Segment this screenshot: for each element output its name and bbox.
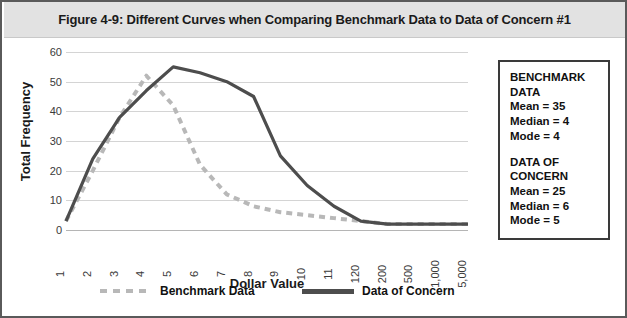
series-line-data-of-concern xyxy=(66,67,468,224)
x-axis-ticks: 12345678910111202005001,0005,000 xyxy=(66,234,468,274)
figure-title-band: Figure 4-9: Different Curves when Compar… xyxy=(4,2,625,38)
figure-container: Figure 4-9: Different Curves when Compar… xyxy=(0,0,627,318)
legend-item-benchmark: Benchmark Data xyxy=(100,284,255,298)
concern-heading-line2: CONCERN xyxy=(510,169,598,184)
y-tick-label: 20 xyxy=(32,165,62,177)
legend-label-benchmark: Benchmark Data xyxy=(160,284,255,298)
dashed-line-swatch-icon xyxy=(100,289,152,293)
chart-legend: Benchmark Data Data of Concern xyxy=(2,274,625,316)
y-tick-label: 10 xyxy=(32,194,62,206)
benchmark-median: Median = 4 xyxy=(510,114,598,129)
chart-axes xyxy=(66,52,468,230)
y-tick-label: 60 xyxy=(32,46,62,58)
benchmark-mode: Mode = 4 xyxy=(510,129,598,144)
figure-title: Figure 4-9: Different Curves when Compar… xyxy=(58,12,570,27)
solid-line-swatch-icon xyxy=(302,289,354,294)
concern-mean: Mean = 25 xyxy=(510,184,598,199)
benchmark-mean: Mean = 35 xyxy=(510,99,598,114)
y-axis-ticks: 0102030405060 xyxy=(32,38,62,238)
y-axis-label: Total Frequency xyxy=(18,57,33,207)
series-line-benchmark-data xyxy=(66,76,468,224)
chart-curves xyxy=(66,52,468,230)
y-tick-label: 40 xyxy=(32,105,62,117)
y-tick-label: 50 xyxy=(32,76,62,88)
y-tick-label: 0 xyxy=(32,224,62,236)
concern-heading-line1: DATA OF xyxy=(510,155,598,170)
statistics-box: BENCHMARK DATA Mean = 35 Median = 4 Mode… xyxy=(498,60,610,240)
legend-label-concern: Data of Concern xyxy=(362,284,455,298)
stats-spacer xyxy=(510,144,598,155)
concern-mode: Mode = 5 xyxy=(510,213,598,228)
y-tick-label: 30 xyxy=(32,135,62,147)
benchmark-heading: BENCHMARK DATA xyxy=(510,70,598,99)
legend-item-concern: Data of Concern xyxy=(302,284,455,298)
gridline xyxy=(66,230,468,231)
concern-median: Median = 6 xyxy=(510,199,598,214)
